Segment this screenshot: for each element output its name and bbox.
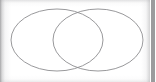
venn-diagram-panel [0, 0, 156, 82]
vertical-scrollbar-track[interactable] [150, 0, 156, 82]
vertical-scrollbar-thumb[interactable] [151, 0, 155, 82]
diagram-canvas[interactable] [0, 0, 156, 82]
venn-diagram-svg [0, 0, 156, 82]
